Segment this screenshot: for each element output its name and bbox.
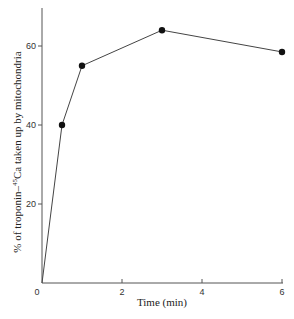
x-tick-label: 2 xyxy=(119,287,124,297)
y-tick-label: 20 xyxy=(26,199,36,209)
data-markers xyxy=(59,27,285,128)
data-point-marker xyxy=(79,63,85,69)
y-tick-label: 60 xyxy=(26,41,36,51)
y-axis-title: % of troponin–45Ca taken up by mitochond… xyxy=(11,51,23,252)
data-point-marker xyxy=(279,49,285,55)
data-line xyxy=(42,30,282,283)
y-tick-label: 40 xyxy=(26,120,36,130)
line-chart: 204060 0246 Time (min) % of troponin–45C… xyxy=(0,0,294,319)
y-ticks: 204060 xyxy=(26,41,42,209)
x-tick-label: 4 xyxy=(199,287,204,297)
x-tick-label: 0 xyxy=(34,287,39,297)
x-axis-title: Time (min) xyxy=(137,296,187,309)
x-ticks: 0246 xyxy=(34,279,284,297)
data-point-marker xyxy=(59,122,65,128)
figure-caption-fragment xyxy=(4,311,294,319)
x-tick-label: 6 xyxy=(279,287,284,297)
data-point-marker xyxy=(159,27,165,33)
